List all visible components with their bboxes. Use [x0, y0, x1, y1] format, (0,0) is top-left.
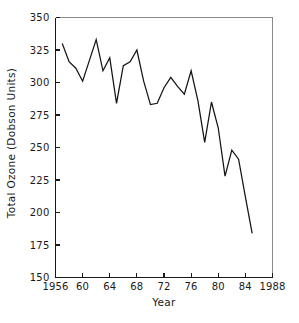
x-tick-label: 68	[130, 281, 143, 292]
y-tick-label: 350	[30, 12, 50, 23]
y-tick-label: 200	[30, 207, 50, 218]
y-tick-label: 300	[30, 77, 50, 88]
plot-frame	[56, 18, 273, 278]
y-tick-label: 225	[30, 175, 50, 186]
x-tick-label: 1988	[259, 281, 285, 292]
x-tick-label: 84	[239, 281, 252, 292]
data-series-group	[62, 40, 252, 234]
x-tick-label: 60	[76, 281, 89, 292]
x-tick-label: 1956	[42, 281, 68, 292]
x-tick-label: 64	[103, 281, 116, 292]
x-axis-ticks: 1956606468727680841988	[42, 273, 285, 292]
x-tick-label: 76	[185, 281, 198, 292]
ozone-line-chart: Total Ozone (Dobson Units) Year 15017520…	[0, 0, 299, 323]
x-tick-label: 80	[212, 281, 225, 292]
y-tick-label: 325	[30, 45, 50, 56]
y-tick-label: 250	[30, 142, 50, 153]
y-tick-label: 275	[30, 110, 50, 121]
y-tick-label: 175	[30, 240, 50, 251]
plot-area: 150175200225250275300325350 195660646872…	[0, 0, 299, 323]
data-series-line	[62, 40, 252, 234]
x-tick-label: 72	[157, 281, 170, 292]
